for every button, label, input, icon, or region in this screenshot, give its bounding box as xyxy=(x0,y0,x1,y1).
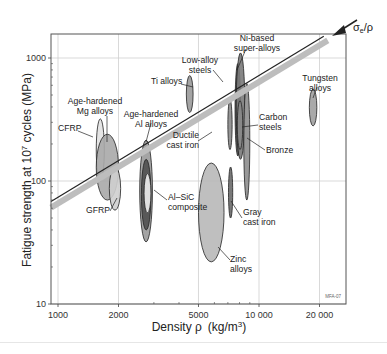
label-zinc-alloys: Zincalloys xyxy=(230,254,252,274)
x-tick-label: 20 000 xyxy=(306,310,334,320)
y-tick-label: 10 xyxy=(36,299,46,309)
ellipse-ti-alloys xyxy=(186,76,193,113)
ellipse-al-sic-composite xyxy=(144,174,151,213)
x-axis-title: Density ρ(kg/m3) xyxy=(152,320,247,334)
ellipse-bronze xyxy=(244,84,250,201)
label-carbon-steels: Carbonsteels xyxy=(259,112,287,132)
label-tungsten-alloys: Tungstenalloys xyxy=(302,73,338,93)
x-tick-label: 1000 xyxy=(48,310,68,320)
bottom-divider xyxy=(0,342,387,343)
y-axis-title: Fatigue strength at 107 cycles (MPa) xyxy=(20,73,34,267)
x-tick-label: 5000 xyxy=(188,310,208,320)
leader-line xyxy=(198,132,212,141)
label-gfrp: GFRP xyxy=(86,205,110,215)
leader-line xyxy=(213,70,223,82)
watermark: MFA-07 xyxy=(325,294,341,299)
label-age-hardened-mg-alloys: Age-hardenedMg alloys xyxy=(68,96,123,116)
x-tick-label: 10 000 xyxy=(245,310,273,320)
label-cfrp: CFRP xyxy=(58,123,82,133)
axis-ticks: 10002000500010 00020 000101001000 xyxy=(26,53,333,320)
ellipse-zinc-alloys xyxy=(198,163,224,262)
y-tick-label: 1000 xyxy=(26,53,46,63)
guide-label: σe/ρ xyxy=(353,21,373,34)
ellipse-tungsten-alloys xyxy=(309,89,317,126)
leader-line xyxy=(154,190,167,200)
label-ti-alloys: Ti alloys xyxy=(151,76,182,86)
label-age-hardened-al-alloys: Age-hardenedAl alloys xyxy=(124,109,179,129)
label-ni-based-super-alloys: Ni-basedsuper-alloys xyxy=(234,33,280,53)
ellipse-carbon-steels xyxy=(237,101,242,150)
x-tick-label: 2000 xyxy=(108,310,128,320)
leader-line xyxy=(218,247,230,260)
label-gray-cast-iron: Graycast iron xyxy=(243,207,276,227)
label-bronze: Bronze xyxy=(266,145,293,155)
fatigue-vs-density-chart: 10002000500010 00020 000101001000 CFRPAg… xyxy=(0,0,387,354)
ellipse-gray-cast-iron xyxy=(228,167,232,218)
label-low-alloy-steels: Low-alloysteels xyxy=(182,55,219,75)
ellipse-ductile-cast-iron xyxy=(228,99,232,149)
